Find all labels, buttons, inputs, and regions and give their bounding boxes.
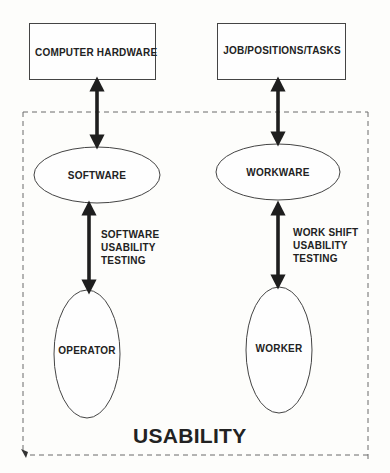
label-line: WORK SHIFT <box>293 226 358 239</box>
label-line: USABILITY <box>101 241 159 254</box>
software-label: SOFTWARE <box>34 170 160 181</box>
operator-label: OPERATOR <box>54 345 120 356</box>
usability-title: USABILITY <box>133 424 247 448</box>
job-positions-tasks-label: JOB/POSITIONS/TASKS <box>218 45 346 56</box>
label-line: USABILITY <box>293 239 358 252</box>
work-shift-usability-testing-label: WORK SHIFT USABILITY TESTING <box>293 226 358 265</box>
computer-hardware-label: COMPUTER HARDWARE <box>35 47 149 58</box>
software-usability-testing-label: SOFTWARE USABILITY TESTING <box>101 228 159 267</box>
worker-label: WORKER <box>246 343 312 354</box>
label-line: TESTING <box>293 252 358 265</box>
label-line: TESTING <box>101 254 159 267</box>
workware-label: WORKWARE <box>216 167 340 178</box>
boundary-corner-arrowhead-icon <box>21 449 28 458</box>
label-line: SOFTWARE <box>101 228 159 241</box>
